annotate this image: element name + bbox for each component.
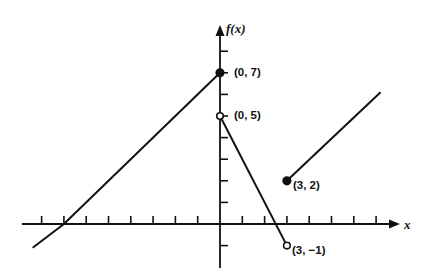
open-point-icon: [284, 242, 291, 249]
piecewise-function-graph: x f(x) (0, 7) (0, 5) (3, 2) (3, −1): [0, 0, 422, 280]
x-axis-arrow-icon: [389, 220, 400, 229]
label-point-3-neg1: (3, −1): [292, 244, 326, 256]
y-axis-label: f(x): [226, 21, 246, 36]
label-point-0-5: (0, 5): [234, 109, 261, 121]
function-segments: [33, 69, 381, 249]
axis-ticks: [42, 51, 377, 245]
label-point-0-7: (0, 7): [234, 66, 261, 78]
closed-point-icon: [216, 69, 224, 77]
x-axis-label: x: [403, 217, 411, 232]
y-axis-arrow-icon: [216, 25, 225, 36]
open-point-icon: [217, 113, 224, 120]
label-point-3-2: (3, 2): [293, 179, 320, 191]
closed-point-icon: [283, 177, 291, 185]
segment-3: [287, 92, 381, 181]
segment-2: [220, 116, 287, 246]
segment-1: [33, 73, 220, 248]
